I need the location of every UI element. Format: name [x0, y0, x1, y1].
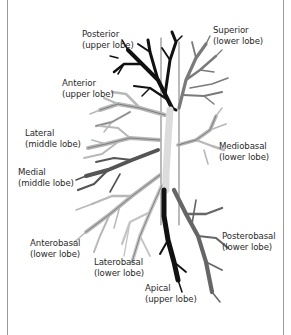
label-mediobasal-lower: Mediobasal (lower lobe) — [219, 141, 269, 163]
main-bronchus — [166, 110, 170, 190]
lobe-name: (lower lobe) — [213, 36, 263, 47]
lobe-name: (lower lobe) — [30, 249, 80, 260]
segment-name: Lateral — [25, 128, 81, 139]
lobe-name: (middle lobe) — [18, 178, 74, 189]
lobe-name: (upper lobe) — [145, 294, 197, 305]
label-posterior-upper: Posterior (upper lobe) — [82, 29, 134, 51]
label-superior-lower: Superior (lower lobe) — [213, 25, 263, 47]
segment-name: Anterior — [62, 78, 114, 89]
segment-name: Apical — [145, 283, 197, 294]
label-medial-middle: Medial (middle lobe) — [18, 167, 74, 189]
lobe-name: (lower lobe) — [219, 152, 269, 163]
segment-name: Laterobasal — [94, 257, 144, 268]
lobe-name: (upper lobe) — [82, 40, 134, 51]
lobe-name: (lower lobe) — [94, 268, 144, 279]
segment-name: Superior — [213, 25, 263, 36]
label-posterobasal-lower: Posterobasal (lower lobe) — [222, 231, 276, 253]
label-laterobasal-lower: Laterobasal (lower lobe) — [94, 257, 144, 279]
label-apical-upper: Apical (upper lobe) — [145, 283, 197, 305]
segment-name: Mediobasal — [219, 141, 269, 152]
lobe-name: (middle lobe) — [25, 139, 81, 150]
label-anterior-upper: Anterior (upper lobe) — [62, 78, 114, 100]
segment-name: Medial — [18, 167, 74, 178]
segment-name: Anterobasal — [30, 238, 80, 249]
lobe-name: (upper lobe) — [62, 89, 114, 100]
segment-name: Posterior — [82, 29, 134, 40]
label-lateral-middle: Lateral (middle lobe) — [25, 128, 81, 150]
lobe-name: (lower lobe) — [222, 242, 276, 253]
label-anterobasal-lower: Anterobasal (lower lobe) — [30, 238, 80, 260]
segment-name: Posterobasal — [222, 231, 276, 242]
